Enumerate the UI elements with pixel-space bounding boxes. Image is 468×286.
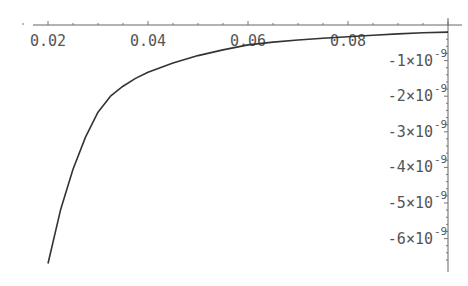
y-tick-label: -5×10 [388, 194, 433, 212]
y-tick-label: -3×10 [388, 123, 433, 141]
y-tick-exponent: -9 [434, 189, 447, 202]
y-tick-label: -6×10 [388, 230, 433, 248]
y-tick-exponent: -9 [434, 153, 447, 166]
y-tick-label: -1×10 [388, 52, 433, 70]
y-tick-exponent: -9 [434, 225, 447, 238]
x-tick-label: 0.02 [30, 32, 66, 50]
line-chart: 0.020.040.060.08 -1×10-9-2×10-9-3×10-9-4… [0, 0, 468, 286]
y-tick-exponent: -9 [434, 82, 447, 95]
y-tick-label: -4×10 [388, 158, 433, 176]
x-tick-label: 0.08 [330, 32, 366, 50]
y-tick-exponent: -9 [434, 47, 447, 60]
x-tick-label: 0.04 [130, 32, 166, 50]
y-tick-label: -2×10 [388, 87, 433, 105]
y-tick-exponent: -9 [434, 118, 447, 131]
y-axis-ticks: -1×10-9-2×10-9-3×10-9-4×10-9-5×10-9-6×10… [388, 32, 448, 260]
